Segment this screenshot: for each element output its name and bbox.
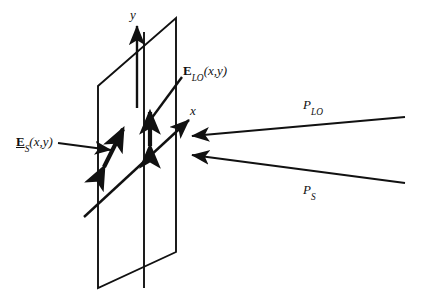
p-s-ray-label: PS xyxy=(303,183,316,200)
diagram-vector-layer xyxy=(0,0,421,301)
e-lo-leader-line xyxy=(151,77,182,119)
p-s-ray xyxy=(192,155,405,183)
x-axis-label: x xyxy=(190,104,196,117)
y-axis-label: y xyxy=(130,8,136,21)
e-lo-field-label: ELO(x,y) xyxy=(183,64,227,81)
diagram-canvas: y x ELO(x,y) ES(x,y) PLO PS xyxy=(0,0,421,301)
p-lo-ray xyxy=(192,117,405,136)
e-s-field-arrow xyxy=(104,129,123,167)
p-lo-ray-label: PLO xyxy=(303,98,323,115)
e-s-field-label: ES(x,y) xyxy=(16,135,53,152)
e-s-leader-arrow xyxy=(58,143,111,150)
x-axis-arrow xyxy=(84,120,189,217)
